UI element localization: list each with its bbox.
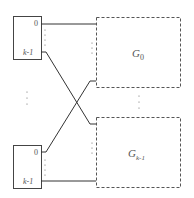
top-port-k1-label: k-1 bbox=[23, 48, 33, 57]
switches-ellipsis bbox=[26, 91, 27, 104]
group-gk1-box bbox=[97, 118, 181, 188]
bottom-box-ports-ellipsis bbox=[44, 159, 45, 175]
top-port-0-label: 0 bbox=[34, 19, 38, 28]
bottom-port-k1-label: k-1 bbox=[23, 177, 33, 186]
groups-ellipsis bbox=[138, 95, 139, 108]
link-topk1-gk1 bbox=[41, 52, 96, 124]
group-gk1-label: Gk-1 bbox=[128, 147, 145, 162]
gk1-inputs-ellipsis bbox=[91, 142, 92, 153]
g0-inputs-ellipsis bbox=[91, 42, 92, 53]
link-bottom0-g0 bbox=[41, 81, 96, 152]
bottom-port-0-label: 0 bbox=[34, 148, 38, 157]
network-diagram: 0 k-1 0 k-1 G0 Gk-1 bbox=[0, 0, 194, 198]
top-box-ports-ellipsis bbox=[44, 29, 45, 45]
group-g0-label: G0 bbox=[132, 47, 144, 62]
